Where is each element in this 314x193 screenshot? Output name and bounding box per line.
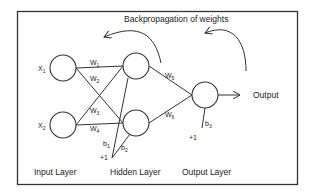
input-node-x1 — [50, 55, 76, 81]
input-node-x2 — [50, 112, 76, 138]
weight-label-w2: W2 — [90, 75, 100, 84]
hidden-node-2 — [123, 110, 149, 136]
layer-label-output: Output Layer — [182, 167, 231, 177]
bias-input-output: +1 — [189, 134, 197, 141]
layer-label-hidden: Hidden Layer — [110, 167, 161, 177]
bias-label-b1: b1 — [103, 140, 110, 149]
weight-label-w1: W1 — [90, 59, 100, 68]
layer-label-input: Input Layer — [34, 167, 77, 177]
output-label: Output — [253, 90, 279, 100]
bias-input-hidden: +1 — [100, 154, 108, 161]
weight-label-w3: W3 — [90, 107, 100, 116]
hidden-node-1 — [123, 53, 149, 79]
diagram-title: Backpropagation of weights — [124, 14, 228, 24]
input-label-x2: X2 — [38, 122, 46, 131]
neural-network-diagram: Backpropagation of weights X1 X2 W1 W2 W… — [0, 0, 314, 193]
input-label-x1: X1 — [38, 65, 46, 74]
weight-label-w6: W6 — [165, 111, 175, 120]
weight-label-w4: W4 — [90, 125, 100, 134]
bias-label-b2: b2 — [121, 144, 128, 153]
backprop-arrow-icon — [205, 30, 246, 71]
bias-label-b3: b3 — [205, 120, 212, 129]
output-node — [192, 82, 218, 108]
